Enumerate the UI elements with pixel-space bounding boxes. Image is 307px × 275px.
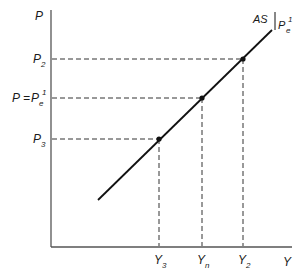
- y-tick-pe-sup: 1: [42, 88, 46, 97]
- x-tick-yn-sub: n: [205, 261, 210, 270]
- y-tick-p2: P: [33, 52, 41, 66]
- curve-label-p-sub: e: [286, 26, 291, 35]
- y-tick-p2-sub: 2: [40, 60, 46, 69]
- x-tick-y3-sub: 3: [162, 261, 167, 270]
- y-tick-pe-sub: e: [39, 99, 44, 108]
- y-axis-label: P: [35, 9, 43, 23]
- y-tick-p3: P: [33, 132, 41, 146]
- as-curve-diagram: P Y AS P e 1 P 2 P = P e 1 P 3 Y 3 Y n Y…: [0, 0, 307, 275]
- as-curve: [98, 30, 272, 200]
- curve-label-p-sup: 1: [288, 15, 292, 24]
- point-p2-y2: [240, 56, 245, 61]
- point-p3-y3: [156, 136, 161, 141]
- y-tick-p3-sub: 3: [41, 140, 46, 149]
- point-pe-yn: [199, 95, 204, 100]
- curve-label-p: P: [278, 19, 286, 31]
- x-tick-y2-sub: 2: [245, 261, 251, 270]
- x-axis-label: Y: [283, 255, 292, 269]
- curve-label-as: AS: [252, 13, 268, 25]
- y-tick-pe: P: [31, 91, 39, 105]
